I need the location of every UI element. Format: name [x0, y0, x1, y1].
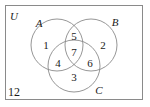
set-label-a: A [36, 18, 43, 29]
region-c-only-value: 3 [71, 72, 77, 83]
region-a-and-c-value: 4 [55, 58, 61, 69]
set-label-b: B [112, 17, 119, 28]
region-outside-value: 12 [8, 86, 20, 98]
region-b-only-value: 2 [100, 40, 106, 51]
set-label-c: C [95, 85, 102, 96]
region-a-and-b-value: 5 [71, 31, 77, 42]
region-a-b-and-c-value: 7 [71, 47, 77, 58]
region-a-only-value: 1 [43, 40, 49, 51]
region-b-and-c-value: 6 [87, 58, 93, 69]
universe-label: U [10, 11, 18, 22]
venn-diagram-screen: U A B C 1 2 3 4 5 6 7 12 [0, 0, 150, 107]
